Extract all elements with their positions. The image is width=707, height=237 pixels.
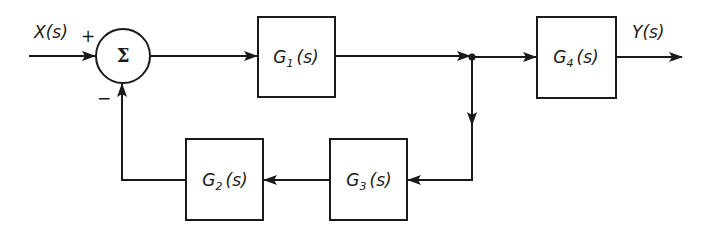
plus-sign: + bbox=[81, 26, 95, 46]
block-g4: G4(s) bbox=[537, 17, 616, 98]
block-diagram: X(s) + Σ − G1(s) G4(s) Y(s) G3(s) bbox=[0, 0, 707, 237]
block-g4-label: G4(s) bbox=[553, 47, 598, 70]
block-g2: G2(s) bbox=[186, 139, 263, 220]
block-g3-label: G3(s) bbox=[346, 170, 391, 193]
feedback-branch-to-g3 bbox=[408, 120, 472, 180]
feedback-return-line bbox=[122, 84, 186, 180]
block-g3: G3(s) bbox=[330, 139, 407, 220]
minus-sign: − bbox=[97, 88, 111, 108]
sigma-symbol: Σ bbox=[117, 45, 130, 66]
input-label: X(s) bbox=[33, 22, 68, 42]
block-g1: G1(s) bbox=[258, 17, 335, 97]
output-label: Y(s) bbox=[632, 22, 665, 42]
block-g1-label: G1(s) bbox=[273, 47, 318, 70]
block-g2-label: G2(s) bbox=[202, 170, 247, 193]
summing-junction: Σ bbox=[96, 29, 150, 83]
